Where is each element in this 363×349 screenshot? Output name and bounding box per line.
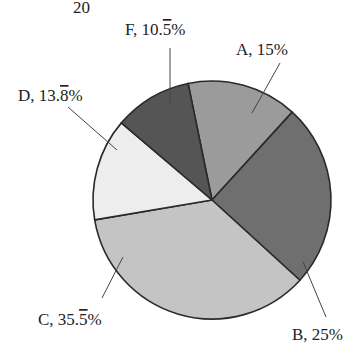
pie-chart: 20 A, 15%B, 25%C, 35.5%D, 13.8%F, 10.5% (0, 0, 363, 349)
slice-label-a: A, 15% (236, 40, 288, 59)
leader-line-b (303, 262, 326, 317)
pie-chart-canvas: 20 A, 15%B, 25%C, 35.5%D, 13.8%F, 10.5% (0, 0, 363, 349)
slice-label-c: C, 35.5% (38, 310, 102, 329)
slice-label-d: D, 13.8% (18, 86, 83, 105)
cropped-title-fragment: 20 (73, 0, 90, 17)
pie-slices (93, 81, 331, 319)
slice-label-b: B, 25% (292, 325, 343, 344)
slice-label-f: F, 10.5% (125, 20, 186, 39)
leader-line-d (68, 107, 117, 150)
